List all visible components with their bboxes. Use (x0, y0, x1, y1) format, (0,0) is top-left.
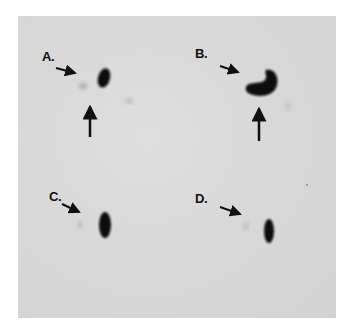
panel-c (62, 204, 111, 238)
speck-d (306, 184, 308, 186)
minor-spot-b (286, 102, 290, 110)
panel-d (220, 184, 308, 243)
arrow-small-b (220, 66, 238, 72)
panel-b (220, 66, 290, 141)
arrow-small-d (220, 207, 240, 214)
arrow-small-c (62, 204, 79, 212)
panel-a (56, 67, 133, 137)
figure-overlay (0, 0, 353, 331)
faint-spot-a (79, 83, 87, 89)
dark-spot-a (96, 67, 113, 89)
crescent-spot-b (246, 70, 278, 96)
faint-spot-d (244, 222, 248, 230)
dark-spot-c (99, 212, 111, 238)
faint-spot-c (78, 221, 82, 229)
dark-spot-d (264, 219, 274, 243)
arrow-small-a (56, 68, 75, 73)
minor-spot-a (125, 99, 133, 103)
